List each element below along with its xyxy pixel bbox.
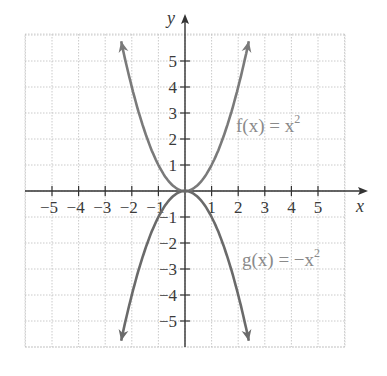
- g-function-label: g(x) = −x2: [242, 246, 320, 271]
- y-tick-label: 5: [169, 52, 178, 71]
- x-axis-label: x: [355, 196, 364, 216]
- y-tick-label: −4: [159, 286, 178, 305]
- y-axis-label: y: [165, 8, 175, 28]
- x-tick-label: 3: [261, 198, 270, 217]
- x-tick-label: 4: [287, 198, 296, 217]
- y-tick-label: −3: [159, 260, 177, 279]
- x-tick-label: −3: [93, 198, 111, 217]
- parabola-chart: −5−4−3−2−11234554321−1−2−3−4−5 x y f(x) …: [0, 0, 387, 376]
- y-tick-label: −2: [159, 234, 177, 253]
- y-tick-label: 4: [169, 78, 178, 97]
- y-tick-label: 3: [169, 104, 178, 123]
- y-tick-label: 2: [169, 130, 178, 149]
- x-tick-label: 2: [234, 198, 243, 217]
- x-tick-label: −2: [120, 198, 138, 217]
- f-function-label: f(x) = x2: [236, 112, 300, 137]
- y-tick-label: −5: [159, 312, 177, 331]
- x-tick-label: −5: [40, 198, 58, 217]
- y-tick-label: 1: [169, 156, 178, 175]
- x-tick-label: 5: [314, 198, 323, 217]
- axes: [25, 14, 368, 347]
- x-tick-label: −4: [67, 198, 86, 217]
